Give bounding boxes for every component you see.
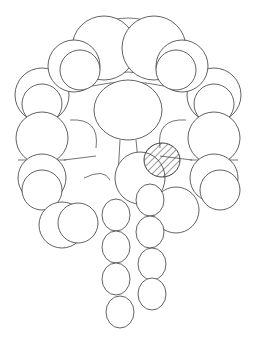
atom-sphere: [60, 50, 100, 90]
stem-atom: [136, 216, 164, 248]
stem-atom: [102, 263, 130, 295]
hatched-highlight-atom: [144, 143, 180, 177]
highlighted-atom: [144, 143, 180, 177]
central-ring: [94, 80, 162, 140]
atom-sphere: [156, 50, 196, 90]
stem-atom: [136, 184, 164, 216]
molecular-model-figure: space-filling molecular model line drawi…: [0, 0, 258, 342]
stem-atoms: [102, 152, 166, 328]
atom-sphere: [200, 170, 240, 210]
atom-sphere: [58, 203, 98, 243]
stem-atom: [102, 231, 130, 263]
space-filling-model-drawing: [0, 0, 258, 342]
left-atom-column: [15, 68, 98, 248]
stem-atom: [138, 278, 166, 310]
stem-atom: [102, 199, 130, 231]
central-cavity: [94, 80, 162, 140]
stem-atom: [106, 296, 134, 328]
stem-atom: [138, 248, 166, 280]
